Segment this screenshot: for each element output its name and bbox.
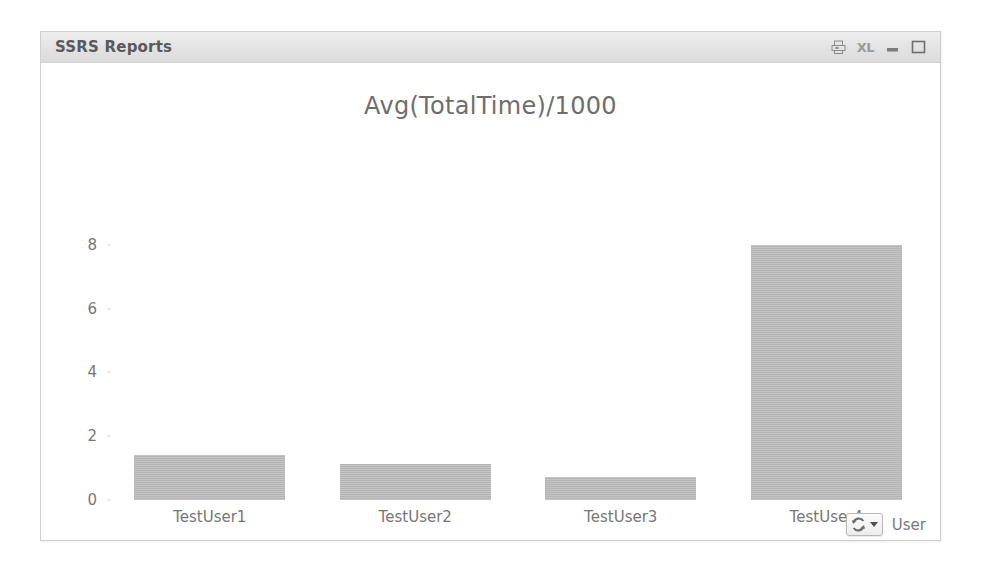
dimension-label: User [892, 516, 926, 534]
bar[interactable] [340, 464, 491, 500]
y-axis-label: 6 [87, 300, 97, 318]
y-axis-tick [107, 244, 111, 245]
ssrs-reports-window: SSRS Reports XL [40, 31, 941, 541]
y-axis-label: 0 [87, 491, 97, 509]
maximize-icon[interactable] [910, 39, 927, 56]
chart-title: Avg(TotalTime)/1000 [41, 92, 940, 120]
print-export-icon[interactable] [830, 39, 847, 56]
y-axis-label: 8 [87, 236, 97, 254]
window-title: SSRS Reports [55, 38, 172, 56]
minimize-icon[interactable] [884, 39, 901, 56]
y-axis-label: 2 [87, 427, 97, 445]
chart-area[interactable]: Avg(TotalTime)/1000 02468 TestUser1TestU… [41, 63, 940, 542]
x-axis-label: TestUser3 [584, 508, 657, 526]
y-axis-tick [107, 436, 111, 437]
y-axis-tick [107, 308, 111, 309]
chevron-down-icon[interactable] [870, 522, 878, 527]
excel-export-icon[interactable]: XL [856, 39, 875, 56]
cycle-dimension-button[interactable] [846, 513, 883, 536]
y-axis-tick [107, 372, 111, 373]
bar[interactable] [751, 245, 902, 500]
window-controls: XL [830, 39, 927, 56]
cycle-icon [850, 516, 867, 533]
window-title-bar: SSRS Reports XL [41, 32, 940, 63]
plot-area: 02468 TestUser1TestUser2TestUser3TestUse… [107, 213, 929, 500]
x-axis-label: TestUser1 [173, 508, 246, 526]
y-axis-tick [107, 500, 111, 501]
bar[interactable] [545, 477, 696, 500]
cyclic-dimension-control[interactable]: User [846, 513, 926, 536]
bar[interactable] [134, 455, 285, 500]
x-axis-label: TestUser2 [379, 508, 452, 526]
y-axis-label: 4 [87, 363, 97, 381]
